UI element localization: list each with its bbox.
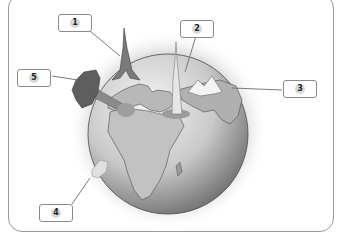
tree-base-shadow [117,103,135,117]
label-box-3[interactable]: 3 [283,80,317,98]
label-number: 3 [295,84,305,94]
label-number: 5 [29,73,39,83]
label-box-4[interactable]: 4 [39,204,73,222]
label-number: 2 [192,24,202,34]
label-box-2[interactable]: 2 [180,20,214,38]
label-box-1[interactable]: 1 [58,14,92,32]
label-number: 1 [70,18,80,28]
leader-line-5 [52,76,78,80]
leader-line-4 [72,178,90,204]
globe-illustration [0,0,338,236]
label-number: 4 [51,208,61,218]
label-box-5[interactable]: 5 [17,69,51,87]
